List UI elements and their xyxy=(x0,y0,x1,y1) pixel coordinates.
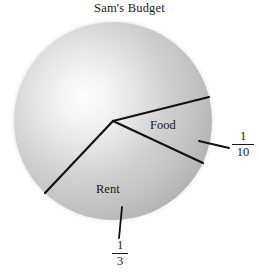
fraction-numerator: 1 xyxy=(232,130,254,143)
pie-chart-canvas xyxy=(0,0,259,276)
fraction-callout-food: 1 10 xyxy=(232,130,254,159)
fraction-callout-rent: 1 3 xyxy=(112,239,128,268)
fraction-numerator: 1 xyxy=(112,239,128,252)
fraction-denominator: 3 xyxy=(112,255,128,268)
slice-label-rent: Rent xyxy=(96,182,120,197)
pie-chart-figure: Sam's Budget Food Rent 1 10 1 3 xyxy=(0,0,259,276)
slice-label-food: Food xyxy=(150,118,176,133)
fraction-denominator: 10 xyxy=(232,146,254,159)
chart-title: Sam's Budget xyxy=(0,1,259,16)
